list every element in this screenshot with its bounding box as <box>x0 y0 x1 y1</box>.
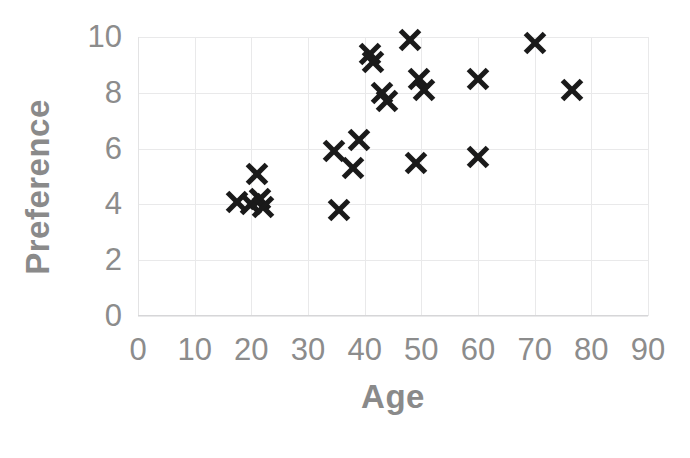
data-point <box>357 41 383 67</box>
y-axis-tick-label: 10 <box>60 21 122 52</box>
x-axis-tick-label: 80 <box>574 334 608 365</box>
data-point <box>244 161 270 187</box>
data-point <box>411 77 437 103</box>
data-point <box>559 77 585 103</box>
y-axis-title: Preference <box>19 67 57 307</box>
data-point <box>406 66 432 92</box>
x-axis-line <box>138 315 648 316</box>
grid-line-vertical <box>308 37 309 316</box>
y-axis-tick-label: 8 <box>60 77 122 108</box>
grid-line-vertical <box>591 37 592 316</box>
grid-line-horizontal <box>138 93 648 94</box>
x-axis-tick-label: 50 <box>404 334 438 365</box>
x-axis-tick-label: 20 <box>234 334 268 365</box>
data-point <box>403 150 429 176</box>
grid-line-horizontal <box>138 204 648 205</box>
grid-line-horizontal <box>138 316 648 317</box>
x-axis-tick-label: 0 <box>129 334 146 365</box>
data-point <box>340 155 366 181</box>
x-axis-tick-label: 70 <box>517 334 551 365</box>
x-axis-tick-label: 10 <box>177 334 211 365</box>
y-axis-line <box>138 37 139 316</box>
plot-area <box>138 37 648 316</box>
x-axis-tick-label: 30 <box>291 334 325 365</box>
grid-line-horizontal <box>138 260 648 261</box>
grid-line-horizontal <box>138 149 648 150</box>
y-axis-tick-label: 2 <box>60 244 122 275</box>
y-axis-tick-label: 0 <box>60 300 122 331</box>
grid-line-vertical <box>478 37 479 316</box>
grid-line-horizontal <box>138 37 648 38</box>
grid-line-vertical <box>365 37 366 316</box>
x-axis-tick-label: 60 <box>461 334 495 365</box>
x-axis-title: Age <box>138 378 648 416</box>
data-point <box>326 197 352 223</box>
data-point <box>397 27 423 53</box>
data-point <box>250 194 276 220</box>
grid-line-vertical <box>648 37 649 316</box>
grid-line-vertical <box>535 37 536 316</box>
grid-line-vertical <box>421 37 422 316</box>
y-axis-tick-label: 4 <box>60 188 122 219</box>
data-point <box>321 138 347 164</box>
scatter-chart: Preference Age 0246810 01020304050607080… <box>0 0 690 458</box>
x-axis-tick-label: 90 <box>631 334 665 365</box>
y-axis-tick-label: 6 <box>60 133 122 164</box>
x-axis-tick-label: 40 <box>347 334 381 365</box>
data-point <box>224 189 250 215</box>
grid-line-vertical <box>195 37 196 316</box>
grid-line-vertical <box>251 37 252 316</box>
